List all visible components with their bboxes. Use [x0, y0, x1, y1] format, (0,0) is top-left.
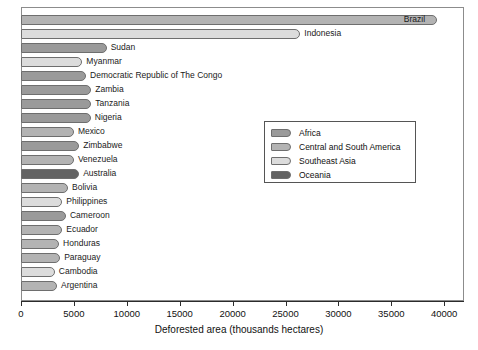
legend: Africa Central and South America Southea… — [264, 121, 416, 183]
x-tick-label: 5000 — [63, 308, 84, 319]
x-tick — [391, 301, 392, 306]
bar-label: Paraguay — [64, 251, 100, 264]
bar-zimbabwe[interactable] — [21, 141, 79, 151]
x-tick-label: 20000 — [219, 308, 245, 319]
bar-sudan[interactable] — [21, 43, 107, 53]
x-tick-label: 30000 — [325, 308, 351, 319]
legend-item[interactable]: Africa — [271, 126, 415, 139]
legend-label: Africa — [299, 128, 321, 138]
bar-label: Myanmar — [86, 55, 121, 68]
bar-label: Indonesia — [304, 27, 341, 40]
bar-row: Democratic Republic of The Congo — [21, 71, 464, 81]
bar-row: Argentina — [21, 281, 464, 291]
bar-label: Bolivia — [72, 181, 97, 194]
bar-myanmar[interactable] — [21, 57, 82, 67]
bar-label: Democratic Republic of The Congo — [90, 69, 222, 82]
x-tick-label: 10000 — [114, 308, 140, 319]
bar-row: Myanmar — [21, 57, 464, 67]
bar-row: Sudan — [21, 43, 464, 53]
legend-item[interactable]: Oceania — [271, 168, 415, 181]
legend-label: Central and South America — [299, 142, 401, 152]
x-tick-label: 35000 — [378, 308, 404, 319]
legend-label: Southeast Asia — [299, 156, 356, 166]
x-tick-label: 25000 — [272, 308, 298, 319]
bar-cambodia[interactable] — [21, 267, 55, 277]
bar-label: Sudan — [111, 41, 136, 54]
x-tick — [338, 301, 339, 306]
bar-row: Bolivia — [21, 183, 464, 193]
x-tick — [74, 301, 75, 306]
bar-label: Mexico — [78, 125, 105, 138]
bar-label: Honduras — [63, 237, 100, 250]
bar-bolivia[interactable] — [21, 183, 68, 193]
bar-honduras[interactable] — [21, 239, 59, 249]
bar-mexico[interactable] — [21, 127, 74, 137]
bar-row: Paraguay — [21, 253, 464, 263]
bar-row: Brazil — [21, 15, 464, 25]
bar-row: Cambodia — [21, 267, 464, 277]
bar-zambia[interactable] — [21, 85, 91, 95]
bar-label: Zambia — [95, 83, 123, 96]
bar-row: Ecuador — [21, 225, 464, 235]
bar-label: Zimbabwe — [83, 139, 122, 152]
bar-label: Argentina — [61, 279, 97, 292]
bar-row: Tanzania — [21, 99, 464, 109]
bar-label: Venezuela — [78, 153, 118, 166]
bar-paraguay[interactable] — [21, 253, 60, 263]
bar-label: Cameroon — [70, 209, 110, 222]
bar-brazil[interactable] — [21, 15, 437, 25]
bar-row: Cameroon — [21, 211, 464, 221]
x-tick-label: 15000 — [166, 308, 192, 319]
bar-label: Philippines — [66, 195, 107, 208]
x-axis-title: Deforested area (thousands hectares) — [0, 324, 478, 335]
deforestation-bar-chart: BrazilIndonesiaSudanMyanmarDemocratic Re… — [0, 0, 478, 350]
bar-label: Cambodia — [59, 265, 98, 278]
bar-australia[interactable] — [21, 169, 79, 179]
bar-label: Brazil — [404, 13, 425, 26]
bar-cameroon[interactable] — [21, 211, 66, 221]
legend-item[interactable]: Southeast Asia — [271, 154, 415, 167]
bar-argentina[interactable] — [21, 281, 57, 291]
bar-indonesia[interactable] — [21, 29, 300, 39]
x-tick — [127, 301, 128, 306]
legend-swatch-oceania — [271, 171, 291, 179]
x-tick-label: 0 — [18, 308, 23, 319]
legend-item[interactable]: Central and South America — [271, 140, 415, 153]
bar-row: Honduras — [21, 239, 464, 249]
x-tick — [444, 301, 445, 306]
bar-tanzania[interactable] — [21, 99, 91, 109]
bar-democratic-republic-of-the-congo[interactable] — [21, 71, 86, 81]
bar-label: Australia — [83, 167, 116, 180]
legend-label: Oceania — [299, 170, 331, 180]
bar-philippines[interactable] — [21, 197, 62, 207]
x-tick — [233, 301, 234, 306]
legend-swatch-central-and-south-america — [271, 143, 291, 151]
x-axis-line — [21, 301, 464, 302]
x-tick — [180, 301, 181, 306]
bar-label: Ecuador — [66, 223, 98, 236]
x-tick — [286, 301, 287, 306]
bar-row: Philippines — [21, 197, 464, 207]
bar-label: Tanzania — [95, 97, 129, 110]
bar-venezuela[interactable] — [21, 155, 74, 165]
bar-row: Indonesia — [21, 29, 464, 39]
bar-label: Nigeria — [95, 111, 122, 124]
x-tick-label: 40000 — [431, 308, 457, 319]
x-tick — [21, 301, 22, 306]
bar-row: Zambia — [21, 85, 464, 95]
legend-swatch-africa — [271, 129, 291, 137]
bar-ecuador[interactable] — [21, 225, 62, 235]
bar-nigeria[interactable] — [21, 113, 91, 123]
legend-swatch-southeast-asia — [271, 157, 291, 165]
